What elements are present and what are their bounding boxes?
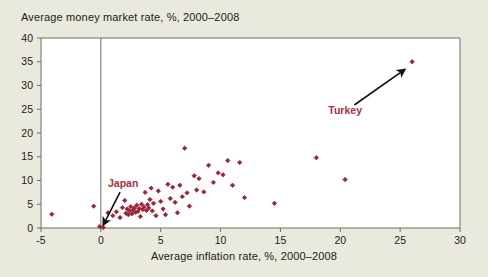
y-tick-label: 10	[21, 174, 33, 186]
y-tick-label: 15	[21, 150, 33, 162]
y-tick-label: 25	[21, 103, 33, 115]
x-tick-label: 20	[334, 234, 346, 246]
y-tick-label: 30	[21, 79, 33, 91]
y-tick-label: 40	[21, 32, 33, 44]
y-tick-label: 20	[21, 127, 33, 139]
x-tick-label: 5	[158, 234, 164, 246]
plot-area-background	[41, 38, 460, 228]
y-tick-label: 5	[27, 198, 33, 210]
chart-figure: Average money market rate, %, 2000–2008 …	[0, 0, 488, 277]
annotation-label: Japan	[108, 177, 138, 189]
y-axis-ticks: 0510152025303540	[21, 32, 41, 234]
x-tick-label: 25	[394, 234, 406, 246]
annotation-label: Turkey	[328, 104, 362, 116]
x-tick-label: -5	[36, 234, 45, 246]
x-tick-label: 0	[98, 234, 104, 246]
x-axis-ticks: -5051015202530	[36, 228, 466, 246]
y-tick-label: 35	[21, 55, 33, 67]
y-tick-label: 0	[27, 222, 33, 234]
scatter-plot-canvas: -5051015202530 0510152025303540 JapanTur…	[0, 0, 488, 277]
x-axis-label: Average inflation rate, %, 2000–2008	[0, 250, 488, 262]
x-tick-label: 15	[275, 234, 287, 246]
x-tick-label: 10	[215, 234, 227, 246]
x-tick-label: 30	[454, 234, 466, 246]
